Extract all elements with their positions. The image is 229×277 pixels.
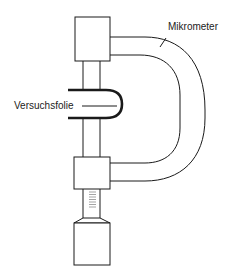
label-test-foil: Versuchsfolie bbox=[14, 101, 73, 111]
frame-arm-outer bbox=[110, 37, 205, 181]
top-anvil-block bbox=[75, 17, 110, 61]
lower-body-block bbox=[74, 157, 110, 189]
scale-ticks bbox=[89, 192, 96, 207]
thimble-taper bbox=[74, 218, 110, 223]
thimble-block bbox=[74, 223, 110, 265]
label-micrometer: Mikrometer bbox=[168, 22, 218, 32]
test-foil bbox=[68, 90, 122, 118]
micrometer-diagram bbox=[0, 0, 229, 277]
